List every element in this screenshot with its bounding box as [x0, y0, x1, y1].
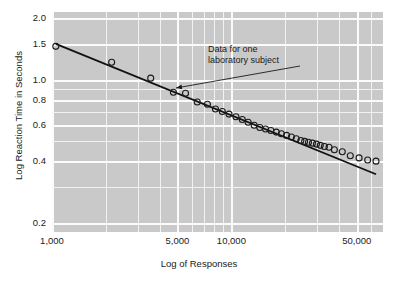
data-point [183, 90, 189, 96]
data-point [331, 147, 337, 153]
x-tick-label: 1,000 [40, 236, 64, 246]
annotation-callout: Data for one laboratory subject [208, 44, 279, 67]
data-point [365, 157, 371, 163]
data-point [339, 149, 345, 155]
x-tick-label: 50,000 [342, 236, 371, 246]
chart-root: 2.01.51.00.80.60.40.2 1,0005,00010,00050… [0, 0, 398, 289]
annotation-line-1: Data for one [208, 44, 279, 55]
data-point [373, 158, 379, 164]
data-point [313, 141, 319, 147]
data-point [347, 153, 353, 159]
x-tick-label: 5,000 [166, 236, 190, 246]
y-axis-title: Log Reaction Time in Seconds [13, 16, 24, 216]
data-point [309, 140, 315, 146]
data-point [109, 59, 115, 65]
data-point [356, 155, 362, 161]
annotation-line-2: laboratory subject [208, 55, 279, 66]
x-axis-title: Log of Responses [0, 258, 398, 269]
data-point [317, 142, 323, 148]
data-point [148, 75, 154, 81]
y-tick-label: 0.2 [0, 218, 46, 228]
x-tick-label: 10,000 [217, 236, 246, 246]
